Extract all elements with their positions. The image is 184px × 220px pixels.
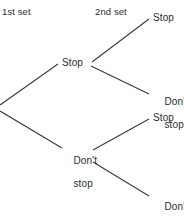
branch-stop-to-stop [92, 19, 149, 62]
column-header-second-set: 2nd set [95, 6, 127, 18]
tree-diagram: 1st set 2nd set Stop Don't stop Stop Don… [0, 0, 184, 220]
leaf-stop-dontstop-line1: Don't [165, 96, 184, 107]
node-dont-stop-label: Don't stop [62, 143, 97, 201]
leaf-dontstop-dontstop-line1: Don't [165, 201, 184, 212]
branch-root-to-stop [0, 64, 58, 105]
node-dont-stop-line2: stop [74, 178, 93, 189]
branch-root-to-dontstop [0, 111, 62, 148]
branch-stop-to-dontstop [91, 66, 149, 94]
column-header-first-set: 1st set [2, 6, 31, 18]
branch-dontstop-to-stop [93, 119, 149, 150]
branch-dontstop-to-dontstop [93, 162, 149, 196]
leaf-stop-stop-label: Stop [153, 12, 174, 24]
leaf-dontstop-stop-label: Stop [153, 112, 174, 124]
leaf-dontstop-dontstop-label: Don't stop [153, 189, 184, 220]
node-stop-label: Stop [62, 57, 83, 69]
node-dont-stop-line1: Don't [74, 155, 98, 166]
